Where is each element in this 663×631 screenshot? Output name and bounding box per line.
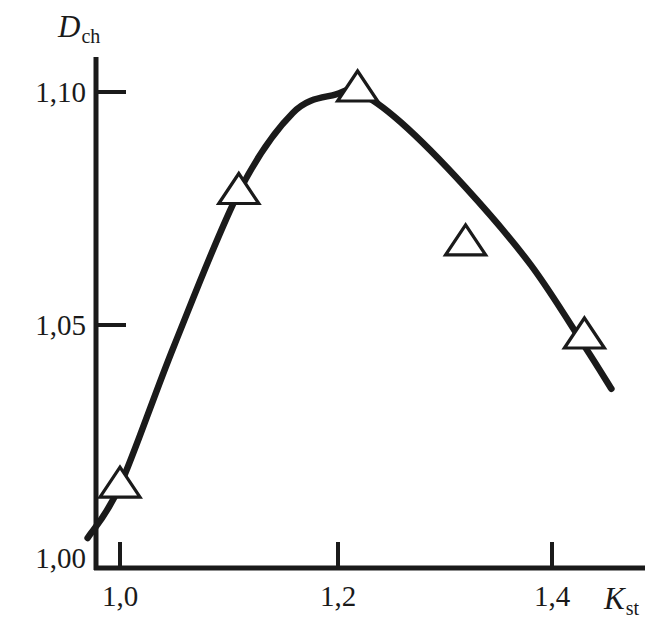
x-tick-label-10: 1,0 xyxy=(75,580,165,613)
x-tick-label-12: 1,2 xyxy=(293,580,383,613)
y-tick-label-110: 1,10 xyxy=(0,76,86,109)
x-axis-title-sub: st xyxy=(626,597,639,619)
x-axis-title-main: K xyxy=(604,581,625,616)
data-trend-curve xyxy=(88,90,612,538)
y-tick-label-100: 1,00 xyxy=(0,542,86,575)
y-axis-title: Dch xyxy=(58,9,99,45)
x-tick-label-14: 1,4 xyxy=(507,580,597,613)
data-point-marker xyxy=(100,467,140,497)
data-point-markers xyxy=(100,71,604,497)
y-axis-title-sub: ch xyxy=(81,25,100,47)
x-axis-title: Kst xyxy=(604,581,638,617)
y-tick-label-105: 1,05 xyxy=(0,309,86,342)
chart-figure: Dch Kst 1,10 1,05 1,00 1,0 1,2 1,4 xyxy=(0,0,663,631)
y-axis-title-main: D xyxy=(58,9,80,44)
data-point-marker xyxy=(219,174,259,204)
data-point-marker xyxy=(446,225,486,255)
chart-plot-area xyxy=(0,0,663,631)
data-point-marker xyxy=(338,71,378,101)
